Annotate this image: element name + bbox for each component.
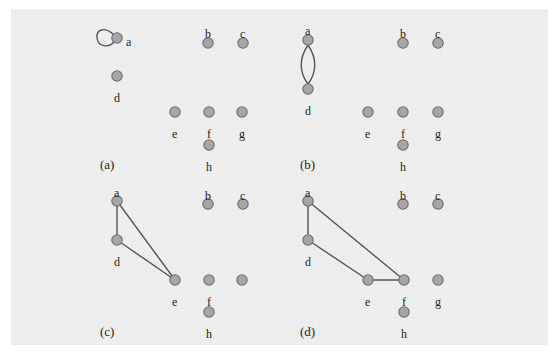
panel-caption-panel-d: (d) (300, 325, 315, 338)
graph-node-g (433, 107, 443, 117)
graph-node-label-d: d (114, 256, 120, 268)
graph-node-label-h: h (401, 328, 407, 340)
graph-node-label-g: g (435, 296, 441, 308)
graph-node-label-c: c (435, 190, 440, 202)
graph-edge-d-e (117, 240, 175, 280)
graph-node-e (363, 275, 373, 285)
graph-node-label-c: c (240, 28, 245, 40)
graph-node-label-e: e (365, 128, 370, 140)
graph-node-label-f: f (207, 128, 211, 140)
graph-node-label-e: e (365, 296, 370, 308)
graph-node-g (237, 107, 247, 117)
graph-node-h (398, 140, 408, 150)
graph-node-label-a: a (305, 25, 310, 37)
graph-edge-a-e (117, 201, 175, 280)
graph-node-label-h: h (206, 161, 212, 173)
graph-edge-a-f (308, 201, 404, 280)
graph-node-label-h: h (400, 161, 406, 173)
graph-node-label-d: d (305, 105, 311, 117)
graph-node-label-a: a (114, 187, 119, 199)
graph-node-g (433, 275, 443, 285)
graph-node-label-a: a (305, 187, 310, 199)
graph-node-label-d: d (305, 256, 311, 268)
graph-node-label-b: b (205, 190, 211, 202)
graph-node-h (204, 140, 214, 150)
panel-c (112, 196, 248, 317)
graph-node-label-h: h (206, 328, 212, 340)
graph-node-f (204, 275, 214, 285)
graph-node-label-e: e (172, 128, 177, 140)
graph-node-label-g: g (239, 128, 245, 140)
graph-node-d (112, 235, 122, 245)
graph-edge-d-e (308, 240, 368, 280)
graph-node-label-b: b (400, 28, 406, 40)
panel-d (303, 196, 443, 317)
graph-node-f (204, 107, 214, 117)
graph-node-f (398, 107, 408, 117)
graph-drawing-surface (0, 0, 559, 354)
graph-node-label-f: f (402, 296, 406, 308)
panel-caption-panel-b: (b) (300, 158, 315, 171)
graph-node-label-f: f (401, 128, 405, 140)
panel-caption-panel-c: (c) (100, 325, 114, 338)
graph-node-label-b: b (400, 190, 406, 202)
graph-node-label-e: e (172, 296, 177, 308)
panel-caption-panel-a: (a) (100, 158, 114, 171)
graph-node-d (303, 235, 313, 245)
graph-node-d (303, 84, 313, 94)
panel-b (301, 35, 443, 150)
graph-node-label-a: a (126, 36, 131, 48)
graph-node-e (363, 107, 373, 117)
graph-node-label-g: g (435, 128, 441, 140)
graph-node-d (112, 71, 122, 81)
graph-node-label-f: f (207, 296, 211, 308)
graph-node-label-c: c (435, 28, 440, 40)
graph-node-label-b: b (205, 28, 211, 40)
graph-node-a (112, 33, 122, 43)
figure-root: abcdefgh(a)abcdefgh(b)abcdefh(c)abcdefgh… (0, 0, 559, 354)
graph-node-e (170, 275, 180, 285)
graph-node-label-c: c (240, 190, 245, 202)
graph-node-f (399, 275, 409, 285)
graph-double-edge-a-d-right (308, 45, 315, 84)
graph-node-label-d: d (114, 92, 120, 104)
graph-double-edge-a-d-left (301, 45, 308, 84)
graph-node-e (170, 107, 180, 117)
graph-node-g (237, 275, 247, 285)
